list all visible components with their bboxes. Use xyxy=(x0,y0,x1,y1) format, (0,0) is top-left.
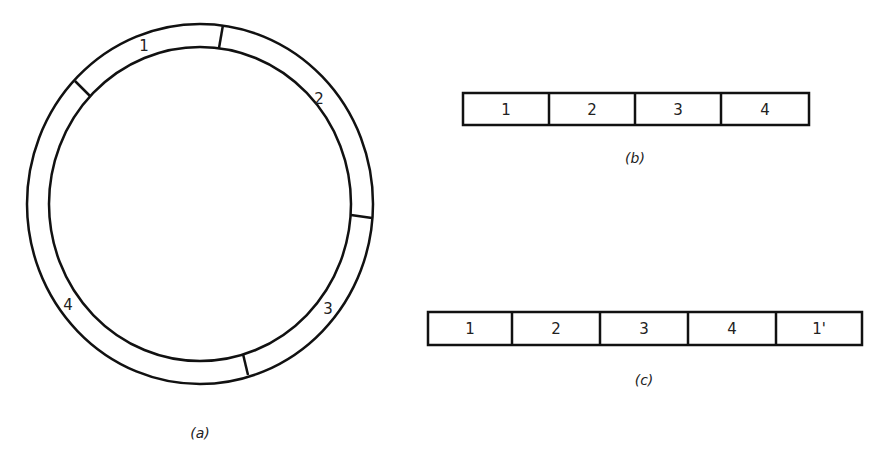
panel-c-array: 1 2 3 4 1' (c) xyxy=(428,312,862,388)
caption-a: (a) xyxy=(190,425,210,441)
ring-label-4: 4 xyxy=(63,296,73,314)
array-c-cell-4: 4 xyxy=(727,320,737,338)
caption-c: (c) xyxy=(635,372,654,388)
ring-label-2: 2 xyxy=(314,90,324,108)
array-b-cell-3: 3 xyxy=(673,101,683,119)
ring-divider-2-3 xyxy=(351,215,372,218)
figure-canvas: 1 2 3 4 (a) 1 2 3 4 (b) 1 2 3 4 1' (c) xyxy=(0,0,890,459)
ring-label-1: 1 xyxy=(139,37,149,55)
ring-divider-3-4 xyxy=(243,354,248,375)
panel-b-array: 1 2 3 4 (b) xyxy=(463,93,809,166)
ring-divider-4-1 xyxy=(75,81,90,96)
array-c-cell-2: 2 xyxy=(551,320,561,338)
ring-inner-edge xyxy=(49,47,351,361)
ring-divider-1-2 xyxy=(219,25,223,48)
ring-outer-edge xyxy=(27,24,373,384)
array-b-cell-1: 1 xyxy=(501,101,511,119)
array-b-cell-2: 2 xyxy=(587,101,597,119)
array-c-cell-5: 1' xyxy=(812,320,826,338)
panel-a-ring: 1 2 3 4 (a) xyxy=(27,24,373,441)
array-c-cell-3: 3 xyxy=(639,320,649,338)
caption-b: (b) xyxy=(625,150,645,166)
array-b-cell-4: 4 xyxy=(760,101,770,119)
array-c-cell-1: 1 xyxy=(465,320,475,338)
ring-label-3: 3 xyxy=(323,300,333,318)
